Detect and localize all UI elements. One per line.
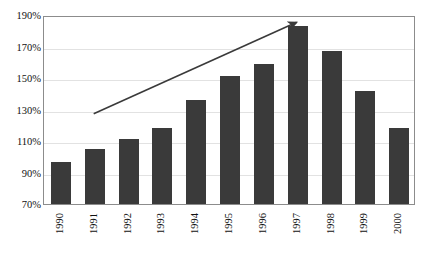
- bar-chart: 70%90%110%130%150%170%190% 1990199119921…: [0, 0, 428, 263]
- y-axis-tick-label: 150%: [1, 74, 41, 84]
- x-axis-tick-label: 1991: [89, 213, 99, 234]
- bar: [389, 128, 409, 204]
- plot-area: [43, 16, 415, 205]
- x-axis-tick-label: 1996: [258, 213, 268, 234]
- x-axis-tick: 2000: [388, 211, 408, 261]
- x-axis-tick: 1993: [151, 211, 171, 261]
- y-axis: 70%90%110%130%150%170%190%: [0, 0, 41, 263]
- x-axis-tick: 1998: [321, 211, 341, 261]
- x-axis-tick-label: 1990: [55, 213, 65, 234]
- x-axis-tick: 1999: [354, 211, 374, 261]
- x-axis-tick-label: 1994: [190, 213, 200, 234]
- x-axis-tick: 1990: [50, 211, 70, 261]
- x-axis-tick-label: 2000: [393, 213, 403, 234]
- bar: [152, 128, 172, 204]
- x-axis-tick-label: 1997: [292, 213, 302, 234]
- x-axis-tick: 1997: [287, 211, 307, 261]
- x-axis-tick: 1994: [185, 211, 205, 261]
- x-axis-tick: 1995: [219, 211, 239, 261]
- bar: [288, 26, 308, 204]
- x-axis-tick: 1996: [253, 211, 273, 261]
- x-axis-tick-label: 1998: [326, 213, 336, 234]
- bar: [322, 51, 342, 204]
- bar: [85, 149, 105, 204]
- bar: [186, 100, 206, 204]
- bar: [355, 91, 375, 204]
- y-axis-tick-label: 110%: [1, 137, 41, 147]
- x-axis-tick-label: 1993: [156, 213, 166, 234]
- bar: [220, 76, 240, 204]
- x-axis-tick: 1991: [84, 211, 104, 261]
- y-axis-tick-label: 170%: [1, 43, 41, 53]
- y-axis-tick-label: 70%: [1, 200, 41, 210]
- x-axis-tick: 1992: [118, 211, 138, 261]
- bar: [51, 162, 71, 205]
- y-axis-tick-label: 190%: [1, 11, 41, 21]
- y-axis-tick-label: 90%: [1, 169, 41, 179]
- bar: [254, 64, 274, 204]
- x-axis-tick-label: 1995: [224, 213, 234, 234]
- y-axis-tick-label: 130%: [1, 106, 41, 116]
- bar-series: [44, 17, 414, 204]
- bar: [119, 139, 139, 204]
- x-axis-tick-label: 1992: [123, 213, 133, 234]
- x-axis-tick-label: 1999: [359, 213, 369, 234]
- x-axis: 1990199119921993199419951996199719981999…: [43, 205, 415, 263]
